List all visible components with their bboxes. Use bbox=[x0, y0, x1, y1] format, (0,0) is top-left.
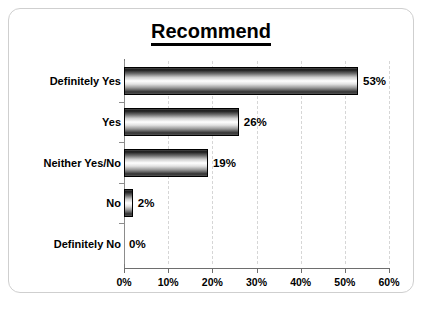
gridline bbox=[389, 61, 390, 264]
y-axis-category-label: Neither Yes/No bbox=[13, 157, 121, 169]
x-axis-tick bbox=[257, 268, 258, 273]
y-axis-tick bbox=[119, 223, 124, 224]
bar-row: 2% bbox=[124, 189, 389, 217]
bar-value-label: 2% bbox=[138, 197, 155, 209]
bar[interactable] bbox=[124, 108, 239, 136]
x-axis-tick-label: 60% bbox=[378, 276, 399, 288]
y-axis-category-label: Definitely Yes bbox=[13, 75, 121, 87]
bar-value-label: 0% bbox=[129, 238, 146, 250]
x-axis-tick-label: 50% bbox=[334, 276, 355, 288]
x-axis-tick bbox=[124, 268, 125, 273]
chart-card: Recommend Definitely YesYesNeither Yes/N… bbox=[8, 8, 414, 293]
x-axis-tick bbox=[301, 268, 302, 273]
x-axis-tick bbox=[389, 268, 390, 273]
y-axis-tick bbox=[119, 183, 124, 184]
x-axis-tick bbox=[212, 268, 213, 273]
bar[interactable] bbox=[124, 149, 208, 177]
bar-value-label: 26% bbox=[244, 116, 267, 128]
y-axis-category-label: Definitely No bbox=[13, 238, 121, 250]
chart-plot-wrapper: Definitely YesYesNeither Yes/NoNoDefinit… bbox=[9, 9, 415, 294]
y-axis-tick bbox=[119, 142, 124, 143]
x-axis-tick bbox=[345, 268, 346, 273]
bar-row: 26% bbox=[124, 108, 389, 136]
x-axis-tick-label: 30% bbox=[246, 276, 267, 288]
x-axis-tick-label: 20% bbox=[202, 276, 223, 288]
bar[interactable] bbox=[124, 189, 133, 217]
y-axis-category-label: No bbox=[13, 197, 121, 209]
x-axis-tick-label: 10% bbox=[158, 276, 179, 288]
x-axis-tick-label: 40% bbox=[290, 276, 311, 288]
bar-value-label: 53% bbox=[363, 75, 386, 87]
y-axis-tick bbox=[119, 102, 124, 103]
bar-row: 19% bbox=[124, 149, 389, 177]
x-axis-tick-label: 0% bbox=[116, 276, 131, 288]
y-axis-category-label: Yes bbox=[13, 116, 121, 128]
bar-row: 53% bbox=[124, 67, 389, 95]
x-axis-tick bbox=[168, 268, 169, 273]
bar-value-label: 19% bbox=[213, 157, 236, 169]
bar[interactable] bbox=[124, 67, 358, 95]
y-axis-category-labels: Definitely YesYesNeither Yes/NoNoDefinit… bbox=[13, 61, 121, 264]
plot-area: 53%26%19%2%0% bbox=[124, 61, 389, 264]
bar-row: 0% bbox=[124, 230, 389, 258]
